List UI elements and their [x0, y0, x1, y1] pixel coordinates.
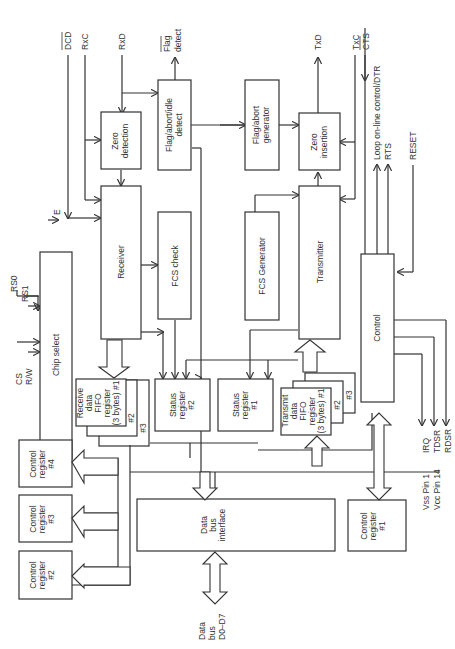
cr4-label-3: #4	[46, 459, 56, 469]
zero-detection-label-1: Zero	[110, 132, 120, 150]
rx-fifo-3-label: #3	[138, 423, 148, 433]
flag-detect-label-2: detect	[174, 113, 184, 137]
flag-generator-label-2: generator	[261, 107, 271, 144]
dbi-label-3: interface	[217, 508, 227, 541]
cr2-label-3: #2	[46, 570, 56, 580]
dcd-label: DCD	[63, 32, 73, 50]
txc-label: TxC	[351, 34, 361, 50]
sr1-label-3: #1	[249, 400, 259, 410]
rw-label: R/W	[24, 368, 34, 385]
fcs-check-label: FCS check	[170, 244, 180, 286]
rts-label: RTS	[383, 143, 393, 160]
reset-label: RESET	[408, 132, 418, 160]
zero-detection-label-2: detection	[120, 123, 130, 158]
transmitter-label: Transmitter	[315, 241, 325, 284]
tx-fifo-label-5: (3 bytes) #1	[316, 388, 326, 433]
rs0-label: RS0	[9, 275, 19, 292]
sr2-label-3: #2	[186, 400, 196, 410]
rxd-label: RxD	[117, 33, 127, 50]
fcs-generator-label: FCS Generator	[257, 237, 267, 295]
data-bus-label-2: bus	[207, 626, 217, 640]
rxc-label: RxC	[80, 33, 90, 50]
data-bus-label-1: Data	[197, 622, 207, 640]
loop-dtr-label: Loop on-line control/DTR	[372, 66, 382, 161]
tx-fifo-2-label: #2	[332, 400, 342, 410]
tx-fifo-3-label: #3	[344, 390, 354, 400]
data-bus-interface-block	[137, 499, 335, 551]
e-label: E	[52, 209, 62, 215]
rdsr-label: RDSR	[443, 429, 453, 453]
cts-label: CTS	[361, 33, 371, 50]
tdsr-label: TDSR	[432, 430, 442, 453]
receiver-label: Receiver	[116, 245, 126, 279]
data-bus-label-3: D0–D7	[217, 613, 227, 640]
txd-label: TxD	[313, 34, 323, 50]
cr1-label-3: #1	[377, 521, 387, 531]
detect-label: detect	[173, 28, 183, 52]
zero-insertion-label-1: Zero	[309, 133, 319, 151]
flag-label: Flag	[162, 35, 172, 52]
rx-fifo-2-label: #2	[126, 413, 136, 423]
vss-label: Vss Pin 1	[421, 474, 431, 510]
rs1-label: RS1	[20, 285, 30, 302]
zero-insertion-label-2: insertion	[319, 126, 329, 158]
control-output-lines	[394, 320, 446, 425]
chip-select-label: Chip select	[51, 333, 61, 376]
cr3-label-3: #3	[46, 514, 56, 524]
cs-label: CS	[14, 373, 24, 385]
control-label: Control	[372, 314, 382, 342]
rx-fifo-label-5: (3 bytes) #1	[111, 380, 121, 425]
hdlc-controller-block-diagram: Zero detection Flag/abort/idle detect Fl…	[0, 0, 455, 649]
irq-label: IRQ	[421, 438, 431, 454]
vcc-label: Vcc Pin 14	[432, 469, 442, 510]
flag-generator-label-1: Flag/abort	[251, 105, 261, 144]
flag-detect-label-1: Flag/abort/idle	[164, 98, 174, 152]
